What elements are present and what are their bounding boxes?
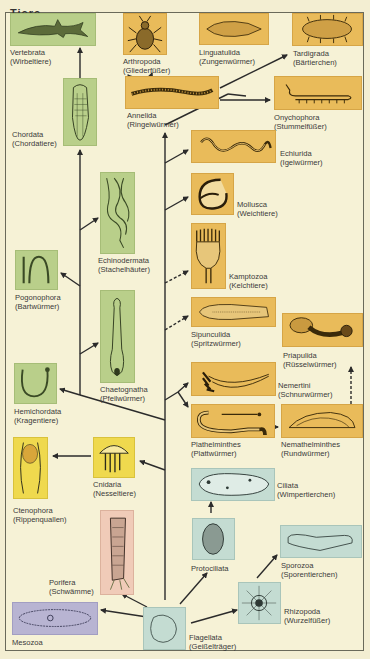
tapeworm-icon (192, 405, 274, 437)
mollusca-image (191, 173, 234, 215)
nemathelminthes-label: Nemathelminthes(Rundwürmer) (281, 440, 340, 458)
nautilus-icon (192, 174, 233, 214)
priapulid-icon (283, 314, 362, 346)
phylogenetic-tree-figure: Tiere (0, 0, 370, 659)
spoon-worm-icon (192, 131, 275, 162)
chaetognatha-label: Chaetognatha(Pfeilwürmer) (100, 385, 148, 403)
onychophora-label: Onychophora(Stummelfüßer) (274, 113, 327, 131)
chaetognatha-image (100, 290, 135, 383)
arthropoda-image (123, 13, 167, 55)
beetle-icon (124, 14, 166, 54)
arrow-worm-icon (101, 291, 134, 382)
nemertini-label: Nemertini(Schnurwürmer) (278, 381, 332, 399)
rhizopoda-image (238, 582, 281, 624)
comb-jelly-icon (14, 438, 47, 498)
hemichordata-label: Hemichordata(Kragentiere) (14, 407, 61, 425)
flagellate-icon (144, 608, 185, 649)
annelida-label: Annelida(Ringelwürmer) (127, 111, 179, 129)
echinodermata-image (100, 172, 135, 254)
ciliata-image (191, 468, 275, 501)
porifera-image (100, 510, 134, 595)
chordata-image (63, 78, 97, 146)
paramecium-icon (192, 469, 274, 500)
acorn-worm-icon (15, 364, 56, 403)
peanut-worm-icon (192, 298, 275, 326)
flagellata-label: Flagellata(Geißelträger) (189, 633, 236, 651)
beard-worm-icon (16, 251, 57, 289)
pogonophora-label: Pogonophora(Bartwürmer) (15, 293, 61, 311)
chordata-label: Chordata(Chordatiere) (12, 130, 57, 148)
roundworm-icon (282, 405, 362, 437)
jellyfish-icon (94, 438, 134, 477)
rhizopoda-label: Rhizopoda(Wurzelfüßer) (284, 607, 330, 625)
protociliata-label: Protociliata (191, 564, 229, 573)
sporozoa-label: Sporozoa(Sporentierchen) (281, 561, 338, 579)
echiurida-image (191, 130, 276, 163)
plathelminthes-label: Plathelminthes(Plattwürmer) (191, 440, 241, 458)
sea-cucumber-icon (101, 173, 134, 253)
linguatulida-label: Linguatulida(Zungenwürmer) (199, 48, 255, 66)
sipunculida-label: Sipunculida(Spritzwürmer) (191, 330, 241, 348)
ribbon-worm-icon (192, 363, 275, 395)
annelida-image (125, 76, 219, 109)
cnidaria-label: Cnidaria(Nesseltiere) (93, 480, 136, 498)
mesozoa-image (12, 602, 98, 635)
kamptozoa-image (191, 223, 226, 289)
gregarine-icon (281, 526, 361, 557)
kamptozoa-label: Kamptozoa(Kelchtiere) (229, 272, 268, 290)
fish-icon (11, 14, 95, 45)
echiurida-label: Echiurida(Igelwürmer) (280, 149, 323, 167)
onychophora-image (274, 76, 362, 110)
segmented-worm-icon (126, 77, 218, 108)
entoproct-icon (192, 224, 225, 288)
plathelminthes-image (191, 404, 275, 438)
arthropoda-label: Arthropoda(Gliederfüßer) (123, 57, 170, 75)
mesozoa-label: Mesozoa (12, 638, 43, 647)
echinodermata-label: Echinodermata(Stachelhäuter) (98, 256, 150, 274)
velvet-worm-icon (275, 77, 361, 109)
sporozoa-image (280, 525, 362, 558)
lancelet-icon (64, 79, 96, 145)
radiolarian-icon (239, 583, 280, 623)
linguatulida-image (199, 13, 269, 45)
ctenophora-label: Ctenophora(Rippenquallen) (13, 506, 67, 524)
opalina-icon (193, 519, 234, 559)
pogonophora-image (15, 250, 58, 290)
tardigrada-image (292, 13, 363, 46)
priapulida-image (282, 313, 363, 347)
protociliata-image (192, 518, 235, 560)
nemathelminthes-image (281, 404, 363, 438)
ciliata-label: Ciliata(Wimpertierchen) (277, 481, 335, 499)
mollusca-label: Mollusca(Weichtiere) (237, 200, 278, 218)
tongue-worm-icon (200, 14, 268, 44)
nemertini-image (191, 362, 276, 396)
vertebrata-label: Vertebrata(Wirbeltiere) (10, 48, 51, 66)
cnidaria-image (93, 437, 135, 478)
porifera-label: Porifera(Schwämme) (49, 578, 94, 596)
flagellata-image (143, 607, 186, 650)
sponge-icon (101, 511, 133, 594)
tardigrada-label: Tardigrada(Bärtierchen) (293, 49, 337, 67)
vertebrata-image (10, 13, 96, 46)
ctenophora-image (13, 437, 48, 499)
water-bear-icon (293, 14, 362, 45)
priapulida-label: Priapulida(Rüsselwürmer) (283, 351, 337, 369)
sipunculida-image (191, 297, 276, 327)
mesozoan-icon (13, 603, 97, 634)
hemichordata-image (14, 363, 57, 404)
